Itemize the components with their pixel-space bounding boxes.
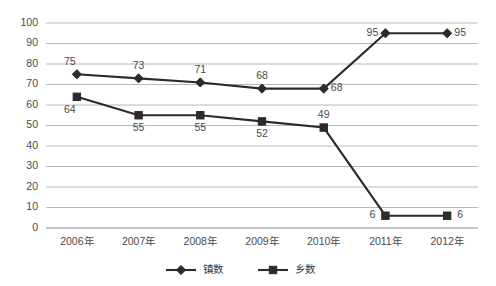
y-axis-tick-label: 20: [26, 180, 38, 192]
y-axis-tick-label: 70: [26, 77, 38, 89]
data-point-label: 68: [256, 69, 268, 81]
data-point-label: 49: [318, 108, 330, 120]
data-point-label: 55: [133, 121, 145, 133]
chart-legend: 镇数乡数: [166, 263, 316, 275]
line-chart: 1009080706050403020100 2006年2007年2008年20…: [0, 0, 496, 286]
legend-item-zhenshu[interactable]: 镇数: [166, 263, 224, 275]
data-point-marker-diamond: [196, 78, 205, 87]
data-point-marker-diamond: [257, 84, 266, 93]
y-axis-tick-label: 0: [32, 221, 38, 233]
data-point-label: 64: [64, 103, 76, 115]
y-axis-tick-label: 40: [26, 139, 38, 151]
y-axis-tick-label: 90: [26, 36, 38, 48]
data-point-marker-square: [382, 212, 389, 219]
x-axis-tick-label: 2007年: [122, 235, 155, 247]
x-axis-tick-label: 2006年: [60, 235, 93, 247]
data-point-label: 73: [133, 59, 145, 71]
x-axis-tick-label: 2010年: [307, 235, 340, 247]
y-axis-tick-label: 10: [26, 200, 38, 212]
data-point-label: 95: [454, 26, 466, 38]
chart-canvas: 1009080706050403020100 2006年2007年2008年20…: [0, 0, 496, 286]
data-point-marker-square: [443, 212, 450, 219]
legend-label: 镇数: [203, 263, 224, 275]
x-axis-tick-label: 2008年: [184, 235, 217, 247]
legend-marker-square: [269, 266, 276, 273]
series-line-square: [77, 97, 447, 216]
data-point-label: 55: [194, 121, 206, 133]
y-axis-tick-label: 30: [26, 159, 38, 171]
x-axis-tick-label: 2009年: [245, 235, 278, 247]
data-point-marker-square: [258, 118, 265, 125]
x-axis-tick-label: 2011年: [369, 235, 402, 247]
data-point-marker-diamond: [443, 29, 452, 38]
legend-item-xiangshu[interactable]: 乡数: [258, 263, 316, 275]
x-axis-tick-label: 2012年: [430, 235, 463, 247]
data-point-marker-square: [135, 112, 142, 119]
data-point-marker-diamond: [134, 74, 143, 83]
data-series: [72, 29, 451, 220]
y-axis-tick-labels: 1009080706050403020100: [20, 16, 38, 233]
data-point-label: 6: [370, 208, 376, 220]
y-axis-tick-label: 80: [26, 57, 38, 69]
data-point-marker-diamond: [72, 70, 81, 79]
data-point-label: 6: [457, 208, 463, 220]
data-point-label: 71: [194, 63, 206, 75]
x-axis-tick-labels: 2006年2007年2008年2009年2010年2011年2012年: [60, 235, 464, 247]
data-point-marker-square: [73, 93, 80, 100]
legend-marker-diamond: [176, 265, 185, 274]
data-point-label: 95: [367, 26, 379, 38]
y-axis-tick-label: 50: [26, 118, 38, 130]
legend-label: 乡数: [295, 263, 316, 275]
y-axis-tick-label: 60: [26, 98, 38, 110]
data-point-marker-square: [197, 112, 204, 119]
data-point-marker-square: [320, 124, 327, 131]
data-point-label: 75: [64, 55, 76, 67]
y-axis-tick-label: 100: [20, 16, 38, 28]
data-point-label: 52: [256, 127, 268, 139]
data-point-label: 68: [331, 81, 343, 93]
